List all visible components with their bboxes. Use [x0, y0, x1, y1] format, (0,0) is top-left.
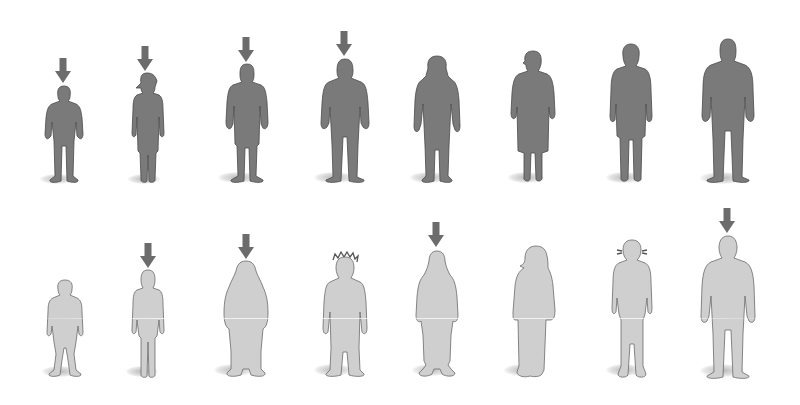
figure-woman-bun-hair — [611, 240, 653, 380]
figure-girl-ponytail — [131, 73, 165, 185]
figure-person-spiky-hair — [323, 252, 367, 378]
arrow-down-icon — [137, 46, 153, 72]
figure-woman-dress — [610, 44, 652, 184]
arrow-down-icon — [719, 208, 735, 234]
figure-child-stocky — [46, 280, 84, 378]
figure-boy — [44, 86, 84, 184]
arrow-down-icon — [140, 243, 156, 269]
figure-man-broad — [701, 236, 755, 380]
figure-man-large — [702, 39, 754, 184]
arrow-down-icon — [238, 234, 254, 260]
print-seam — [0, 318, 800, 319]
arrow-down-icon — [336, 31, 352, 57]
arrow-down-icon — [55, 58, 71, 84]
arrow-down-icon — [238, 37, 254, 63]
arrow-down-icon — [428, 222, 444, 248]
figure-woman-headscarf-robe — [512, 246, 556, 380]
figure-girl-slim — [131, 270, 165, 380]
silhouette-illustration — [0, 0, 800, 405]
figure-woman-skirt — [511, 51, 555, 184]
figure-woman-long-dress — [416, 251, 458, 379]
figure-person-robed — [223, 261, 269, 379]
figure-man-shorts — [226, 64, 268, 184]
figure-woman-long-hair — [414, 56, 460, 184]
figure-man-tall — [321, 59, 369, 184]
